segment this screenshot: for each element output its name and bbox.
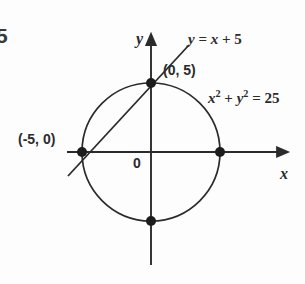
line-eq-plus: + [218, 31, 234, 47]
line-eq-lhs: y [188, 31, 195, 47]
circle-eq-term1-variable: x [208, 90, 216, 106]
margin-item-number: 5 [0, 25, 8, 46]
point-circle-right [215, 147, 225, 157]
point-intersection-left [77, 147, 87, 157]
line-equation-label: y = x + 5 [188, 32, 242, 47]
x-axis-label: x [280, 166, 288, 182]
origin-label: 0 [133, 156, 141, 170]
point-label-top: (0, 5) [163, 63, 196, 77]
circle-eq-equals: = [248, 90, 264, 106]
math-figure-circle-line: 5 y x 0 y = x + 5 x2 + y2 = 25 (0, 5) (-… [0, 0, 305, 284]
circle-equation-label: x2 + y2 = 25 [208, 89, 279, 106]
circle-eq-value: 25 [264, 90, 279, 106]
y-axis-label: y [136, 31, 143, 47]
point-circle-bottom [146, 216, 156, 226]
line-eq-equals: = [195, 31, 211, 47]
point-intersection-top [146, 78, 156, 88]
point-label-left: (-5, 0) [18, 132, 55, 146]
circle-eq-plus: + [221, 90, 237, 106]
line-eq-constant: 5 [234, 31, 242, 47]
